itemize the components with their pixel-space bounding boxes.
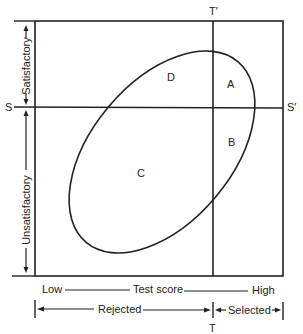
test-bottom-label: T (209, 323, 216, 334)
criterion-cutoff-line (14, 107, 283, 108)
arrow-up-icon (24, 110, 29, 116)
selected-label: Selected (228, 305, 271, 316)
low-label: Low (42, 284, 62, 295)
quadrant-b-label: B (228, 137, 235, 148)
high-label: High (252, 285, 275, 296)
unsatisfactory-label: Unsatisfactory (20, 170, 32, 250)
arrow-right-icon (275, 308, 281, 313)
criterion-right-label: S′ (287, 102, 296, 113)
arrow-right-icon (204, 308, 211, 313)
arrow-down-icon (24, 99, 29, 105)
rejected-label: Rejected (98, 304, 141, 315)
quadrant-c-label: C (137, 168, 145, 179)
test-top-label: T′ (209, 6, 218, 17)
arrow-left-icon (215, 308, 221, 313)
criterion-left-label: S (5, 102, 12, 113)
quadrant-d-label: D (167, 72, 175, 83)
arrow-down-icon (24, 267, 29, 273)
arrow-up-icon (24, 25, 29, 31)
quadrant-a-label: A (227, 79, 234, 90)
satisfactory-label: Satisfactory (20, 35, 32, 97)
scatter-ellipse (33, 17, 292, 288)
arrow-left-icon (37, 307, 44, 312)
test-score-label: Test score (133, 284, 183, 295)
